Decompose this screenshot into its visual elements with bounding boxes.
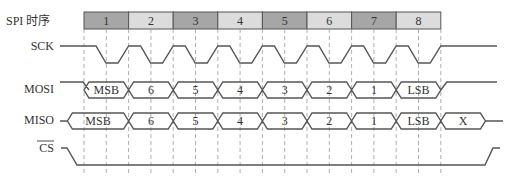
sck-waveform (60, 46, 497, 63)
bit-label: 4 (237, 83, 243, 97)
bit-label: 6 (148, 114, 154, 128)
bit-label: 5 (193, 83, 199, 97)
clock-cell-8: 8 (396, 12, 441, 29)
clock-cell-6: 6 (307, 12, 352, 29)
bit-label: 1 (371, 83, 377, 97)
clock-cell-label: 5 (282, 14, 288, 28)
bit-label: 5 (193, 114, 199, 128)
clock-cell-label: 1 (103, 14, 109, 28)
bit-label: 2 (326, 83, 332, 97)
bit-label: MSB (94, 83, 119, 97)
clock-cell-label: 8 (416, 14, 422, 28)
clock-cell-label: 3 (193, 14, 199, 28)
bit-label: 1 (371, 114, 377, 128)
mosi-label: MOSI (24, 82, 54, 96)
cs-waveform (61, 148, 500, 165)
clock-cell-label: 7 (371, 14, 377, 28)
bit-label: 2 (326, 114, 332, 128)
timing-canvas: SPI 时序 SCK MOSI MISO CS 12345678 MSB6543… (0, 0, 519, 184)
clock-cell-2: 2 (129, 12, 174, 29)
clock-cell-5: 5 (262, 12, 307, 29)
diagram-title: SPI 时序 (6, 13, 50, 28)
clock-cell-1: 1 (84, 12, 129, 29)
clock-cell-label: 6 (326, 14, 332, 28)
clock-cell-7: 7 (352, 12, 397, 29)
bit-label: 3 (282, 83, 288, 97)
bit-label: LSB (407, 114, 429, 128)
clock-cell-label: 2 (148, 14, 154, 28)
mosi-waveform: MSB654321LSB (60, 82, 497, 98)
bit-label: LSB (407, 83, 429, 97)
clock-cell-4: 4 (218, 12, 263, 29)
dashed-guides (84, 29, 441, 176)
miso-waveform: MSB654321LSBX (60, 113, 503, 129)
clock-cell-3: 3 (173, 12, 218, 29)
bit-label: 6 (148, 83, 154, 97)
bit-label: 4 (237, 114, 243, 128)
bit-label: 3 (282, 114, 288, 128)
clock-cells: 12345678 (84, 12, 441, 29)
sck-label: SCK (31, 39, 55, 53)
bit-label: X (459, 114, 468, 128)
cs-label-group: CS (37, 141, 54, 155)
bit-label: MSB (85, 114, 110, 128)
spi-timing-diagram: SPI 时序 SCK MOSI MISO CS 12345678 MSB6543… (0, 0, 519, 184)
clock-cell-label: 4 (237, 14, 243, 28)
cs-label: CS (39, 141, 54, 155)
miso-label: MISO (24, 113, 54, 127)
